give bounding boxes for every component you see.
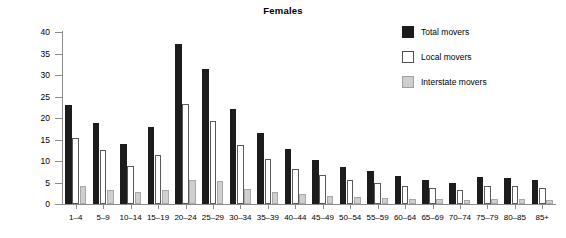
bar-group bbox=[120, 32, 141, 204]
bar-local-movers[interactable] bbox=[182, 104, 189, 204]
y-axis-tick-label: 10 bbox=[14, 157, 50, 166]
bar-local-movers[interactable] bbox=[347, 180, 354, 204]
x-axis-tick bbox=[268, 205, 269, 209]
legend-item-total[interactable]: Total movers bbox=[402, 26, 552, 38]
x-axis-tick bbox=[515, 205, 516, 209]
x-axis-tick bbox=[433, 205, 434, 209]
bar-interstate-movers[interactable] bbox=[135, 192, 142, 204]
bar-total-movers[interactable] bbox=[367, 171, 374, 204]
bar-local-movers[interactable] bbox=[100, 150, 107, 204]
legend-item-interstate[interactable]: Interstate movers bbox=[402, 76, 552, 88]
bar-local-movers[interactable] bbox=[210, 121, 217, 204]
bar-group bbox=[285, 32, 306, 204]
x-axis-tick bbox=[487, 205, 488, 209]
legend-item-label: Local movers bbox=[421, 52, 472, 62]
y-axis-tick bbox=[55, 54, 62, 55]
bar-local-movers[interactable] bbox=[539, 188, 546, 204]
x-axis-tick bbox=[213, 205, 214, 209]
bar-total-movers[interactable] bbox=[93, 123, 100, 204]
bar-interstate-movers[interactable] bbox=[354, 197, 361, 204]
bar-interstate-movers[interactable] bbox=[519, 199, 526, 204]
chart-figure: Females Percent 0510152025303540 1–45–91… bbox=[0, 0, 566, 238]
bar-total-movers[interactable] bbox=[257, 133, 264, 204]
y-axis-tick bbox=[55, 140, 62, 141]
y-axis-tick-label: 20 bbox=[14, 114, 50, 123]
bar-interstate-movers[interactable] bbox=[546, 200, 553, 204]
y-axis-tick-label: 40 bbox=[14, 28, 50, 37]
legend-item-label: Interstate movers bbox=[421, 77, 487, 87]
bar-local-movers[interactable] bbox=[319, 175, 326, 204]
bar-local-movers[interactable] bbox=[429, 188, 436, 204]
bar-group bbox=[312, 32, 333, 204]
bar-local-movers[interactable] bbox=[265, 159, 272, 204]
y-axis-tick-label: 15 bbox=[14, 136, 50, 145]
legend-swatch-icon bbox=[402, 51, 414, 63]
legend-item-local[interactable]: Local movers bbox=[402, 51, 552, 63]
chart-legend: Total moversLocal moversInterstate mover… bbox=[402, 26, 552, 101]
y-axis-tick-label: 35 bbox=[14, 50, 50, 59]
x-axis-tick bbox=[240, 205, 241, 209]
bar-local-movers[interactable] bbox=[374, 183, 381, 205]
y-axis-tick-label: 25 bbox=[14, 93, 50, 102]
bar-group bbox=[148, 32, 169, 204]
bar-local-movers[interactable] bbox=[155, 155, 162, 204]
x-axis-tick-label: 85+ bbox=[522, 213, 562, 222]
bar-total-movers[interactable] bbox=[202, 69, 209, 204]
legend-swatch-icon bbox=[402, 26, 414, 38]
bar-total-movers[interactable] bbox=[340, 167, 347, 204]
x-axis-tick bbox=[405, 205, 406, 209]
bar-local-movers[interactable] bbox=[237, 145, 244, 204]
bar-group bbox=[257, 32, 278, 204]
bar-total-movers[interactable] bbox=[120, 144, 127, 204]
bar-interstate-movers[interactable] bbox=[217, 181, 224, 204]
x-axis-tick bbox=[103, 205, 104, 209]
bar-interstate-movers[interactable] bbox=[464, 200, 471, 204]
bar-group bbox=[230, 32, 251, 204]
bar-interstate-movers[interactable] bbox=[244, 189, 251, 204]
bar-total-movers[interactable] bbox=[477, 177, 484, 204]
bar-interstate-movers[interactable] bbox=[107, 190, 114, 204]
bar-local-movers[interactable] bbox=[292, 169, 299, 204]
bar-local-movers[interactable] bbox=[72, 138, 79, 204]
y-axis-tick bbox=[55, 183, 62, 184]
bar-total-movers[interactable] bbox=[532, 180, 539, 204]
bar-total-movers[interactable] bbox=[312, 160, 319, 204]
x-axis-tick bbox=[378, 205, 379, 209]
y-axis-tick bbox=[55, 204, 62, 205]
bar-interstate-movers[interactable] bbox=[162, 190, 169, 204]
bar-interstate-movers[interactable] bbox=[272, 192, 279, 204]
bar-interstate-movers[interactable] bbox=[189, 180, 196, 204]
bar-interstate-movers[interactable] bbox=[491, 199, 498, 204]
y-axis-tick bbox=[55, 75, 62, 76]
bar-interstate-movers[interactable] bbox=[382, 198, 389, 204]
y-axis-tick bbox=[55, 161, 62, 162]
legend-item-label: Total movers bbox=[421, 27, 469, 37]
bar-interstate-movers[interactable] bbox=[299, 194, 306, 204]
bar-local-movers[interactable] bbox=[512, 186, 519, 204]
x-axis-tick bbox=[350, 205, 351, 209]
bar-total-movers[interactable] bbox=[449, 183, 456, 204]
bar-total-movers[interactable] bbox=[148, 127, 155, 204]
y-axis-tick-label: 0 bbox=[14, 200, 50, 209]
bar-local-movers[interactable] bbox=[402, 186, 409, 204]
bar-interstate-movers[interactable] bbox=[436, 199, 443, 204]
bar-group bbox=[175, 32, 196, 204]
x-axis-tick bbox=[295, 205, 296, 209]
bar-interstate-movers[interactable] bbox=[80, 186, 87, 204]
bar-total-movers[interactable] bbox=[504, 178, 511, 204]
bar-local-movers[interactable] bbox=[484, 186, 491, 204]
bar-local-movers[interactable] bbox=[457, 190, 464, 204]
bar-group bbox=[367, 32, 388, 204]
y-axis-tick bbox=[55, 97, 62, 98]
chart-title: Females bbox=[0, 5, 566, 16]
bar-interstate-movers[interactable] bbox=[327, 196, 334, 204]
bar-total-movers[interactable] bbox=[175, 44, 182, 204]
bar-total-movers[interactable] bbox=[422, 180, 429, 204]
bar-total-movers[interactable] bbox=[395, 176, 402, 204]
x-axis-tick bbox=[186, 205, 187, 209]
bar-total-movers[interactable] bbox=[65, 105, 72, 204]
bar-interstate-movers[interactable] bbox=[409, 199, 416, 204]
bar-total-movers[interactable] bbox=[285, 149, 292, 204]
bar-local-movers[interactable] bbox=[127, 166, 134, 204]
bar-total-movers[interactable] bbox=[230, 109, 237, 204]
